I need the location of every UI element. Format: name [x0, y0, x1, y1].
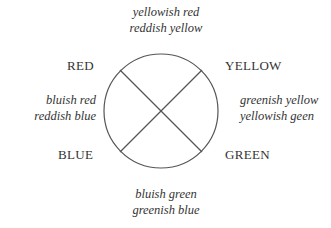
mixture-top-line1: yellowish red: [118, 4, 214, 20]
mixture-right: greenish yellow yellowish geen: [240, 92, 331, 124]
label-green: GREEN: [225, 147, 270, 163]
mixture-left-line1: bluish red: [16, 92, 96, 108]
mixture-left: bluish red reddish blue: [16, 92, 96, 124]
mixture-bottom: bluish green greenish blue: [118, 186, 214, 218]
mixture-top-line2: reddish yellow: [118, 20, 214, 36]
mixture-bottom-line2: greenish blue: [118, 202, 214, 218]
mixture-left-line2: reddish blue: [16, 108, 96, 124]
mixture-right-line2: yellowish geen: [240, 108, 331, 124]
label-yellow: YELLOW: [225, 58, 282, 74]
mixture-right-line1: greenish yellow: [240, 92, 331, 108]
label-blue: BLUE: [58, 147, 93, 163]
mixture-bottom-line1: bluish green: [118, 186, 214, 202]
mixture-top: yellowish red reddish yellow: [118, 4, 214, 36]
label-red: RED: [67, 58, 94, 74]
